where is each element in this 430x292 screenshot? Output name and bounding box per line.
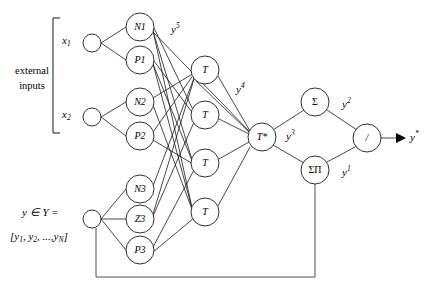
output-arrow-head (396, 133, 406, 143)
node-input-y-feedback[interactable] (83, 210, 101, 228)
external-inputs-line1: external (15, 65, 49, 76)
edges-summation-to-divide (327, 110, 357, 162)
edge-T4-to-Tstar (218, 147, 250, 206)
node-T-star-label: T* (257, 131, 268, 142)
signal-label-y3: y3 (285, 128, 295, 142)
output-label-group: y* (409, 129, 419, 143)
node-input-x2[interactable] (83, 108, 101, 126)
node-input-x1[interactable] (83, 34, 101, 52)
edge-y-to-N3 (101, 189, 126, 219)
node-N1-label: N1 (133, 21, 146, 32)
node-P2-label: P2 (133, 130, 145, 141)
edge-x2-to-N2 (101, 102, 126, 117)
signal-label-y1: y1 (341, 164, 351, 178)
external-inputs-text: external inputs (15, 65, 49, 91)
edge-Tstar-to-Sigma (273, 110, 304, 130)
external-inputs-line2: inputs (19, 80, 45, 91)
node-N3-label: N3 (133, 183, 146, 194)
aggregation-layer-nodes: T* (248, 123, 276, 151)
membership-layer-nodes: N1 P1 N2 P2 N3 Z3 P3 (126, 13, 154, 264)
edge-Sigma-to-divide (327, 110, 357, 130)
signal-label-y5: y5 (170, 21, 180, 35)
node-Z3-label: Z3 (135, 213, 146, 224)
output-label: y* (409, 129, 419, 143)
edge-x1-to-N1 (101, 27, 126, 43)
input-variable-labels: x1 x2 (61, 34, 71, 122)
signal-label-y2: y2 (341, 96, 351, 110)
feedback-vector-labels: y ∈ Y = [y1, y2, ...,yN] (10, 206, 68, 244)
node-P1-label: P1 (133, 54, 145, 65)
input-x2-label: x2 (61, 108, 71, 122)
edges-membership-to-tnorm (153, 28, 195, 252)
node-sigma-label: Σ (312, 96, 318, 107)
external-inputs-bracket (53, 18, 60, 133)
output-arrow (381, 133, 406, 143)
edges-tnorm-to-tstar (218, 76, 250, 206)
node-N2-label: N2 (133, 96, 146, 107)
signal-label-y4: y4 (235, 81, 245, 95)
feedback-vector-label: [y1, y2, ...,yN] (10, 230, 68, 244)
edge-x1-to-P1 (101, 43, 126, 60)
summation-layer-nodes: Σ ΣΠ (301, 88, 329, 184)
tnorm-layer-nodes: T T T T (191, 56, 219, 226)
output-layer-nodes: / (353, 124, 381, 152)
edges-input-to-membership (101, 27, 126, 250)
edge-y-to-P3 (101, 219, 126, 250)
diagram-canvas: N1 P1 N2 P2 N3 Z3 P3 T T T T (0, 0, 430, 292)
edge-x2-to-P2 (101, 117, 126, 136)
feedback-header-label: y ∈ Y = (21, 206, 59, 218)
edge-SigmaPi-to-divide (327, 146, 357, 162)
input-x1-label: x1 (61, 34, 71, 48)
edge-Tstar-to-SigmaPi (273, 145, 304, 163)
input-layer-nodes (83, 34, 101, 228)
neuro-fuzzy-network-diagram: N1 P1 N2 P2 N3 Z3 P3 T T T T (0, 0, 430, 292)
bracket-shape (53, 18, 60, 133)
node-sigma-pi-label: ΣΠ (308, 164, 321, 175)
node-P3-label: P3 (133, 244, 145, 255)
